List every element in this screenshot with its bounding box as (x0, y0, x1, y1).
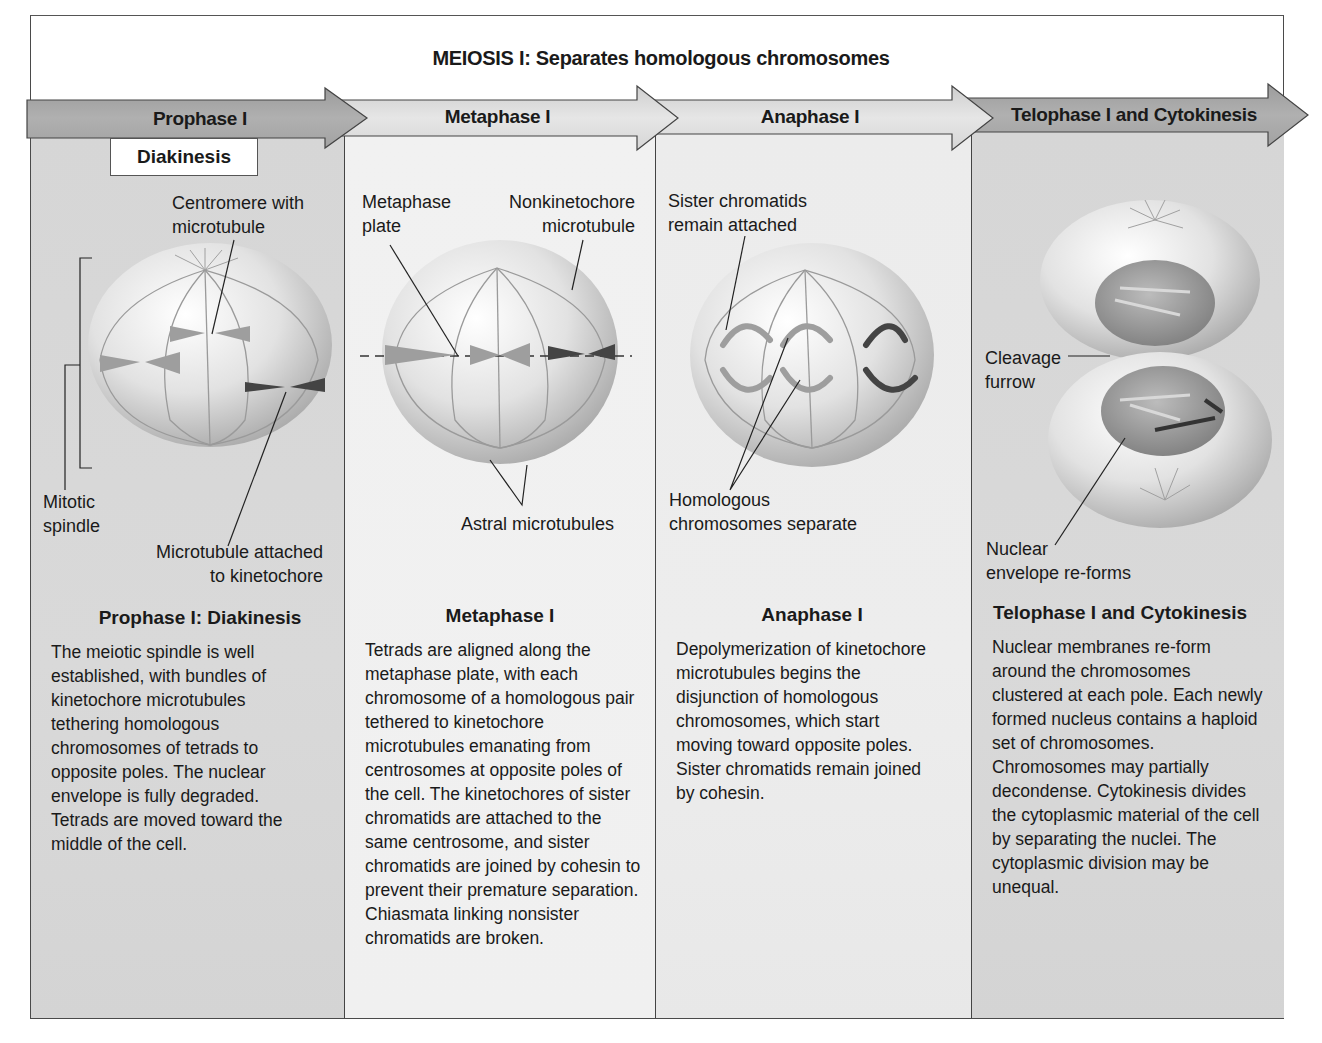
banner-anaphase: Anaphase I (690, 106, 930, 128)
desc-metaphase: Tetrads are aligned along the metaphase … (365, 638, 643, 950)
desc-anaphase: Depolymerization of kinetochore microtub… (676, 637, 938, 805)
label-mitotic-spindle: Mitotic spindle (43, 490, 100, 538)
label-cleavage-furrow: Cleavage furrow (985, 346, 1061, 394)
label-astral: Astral microtubules (461, 512, 614, 536)
column-anaphase (656, 130, 972, 1018)
substage-diakinesis: Diakinesis (110, 138, 258, 176)
desc-title-anaphase: Anaphase I (672, 604, 952, 626)
banner-telophase: Telophase I and Cytokinesis (995, 104, 1273, 126)
desc-prophase: The meiotic spindle is well established,… (51, 640, 313, 856)
label-homologous-separate: Homologous chromosomes separate (669, 488, 857, 536)
desc-title-prophase: Prophase I: Diakinesis (60, 607, 340, 629)
label-nonkinetochore: Nonkinetochore microtubule (470, 190, 635, 238)
desc-title-telophase: Telophase I and Cytokinesis (985, 602, 1283, 624)
desc-telophase: Nuclear membranes re-form around the chr… (992, 635, 1264, 899)
label-microtubule-kinetochore: Microtubule attached to kinetochore (120, 540, 323, 588)
banner-prophase: Prophase I (80, 108, 320, 130)
label-centromere: Centromere with microtubule (172, 191, 304, 239)
label-metaphase-plate: Metaphase plate (362, 190, 451, 238)
banner-metaphase: Metaphase I (375, 106, 620, 128)
label-nuclear-envelope: Nuclear envelope re-forms (986, 537, 1131, 585)
desc-title-metaphase: Metaphase I (360, 605, 640, 627)
stage-arrows (0, 0, 1322, 160)
label-sister-chromatids: Sister chromatids remain attached (668, 189, 807, 237)
